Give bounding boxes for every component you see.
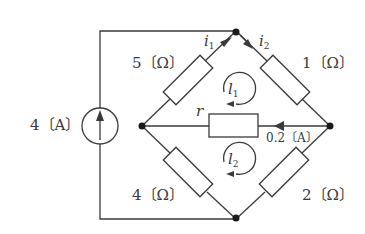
middle-current-arrow-icon xyxy=(274,121,284,131)
loop-l2-label: l2 xyxy=(228,152,239,167)
i1-label: i1 xyxy=(204,34,215,49)
resistor-4ohm-label: 4〔Ω〕 xyxy=(132,188,184,203)
resistor-r xyxy=(209,114,258,137)
resistor-r-label: r xyxy=(196,104,203,119)
circuit-diagram: 4〔A〕 5〔Ω〕 1〔Ω〕 4〔Ω〕 2〔Ω〕 r 0.2〔A〕 i1 i2 … xyxy=(0,0,365,234)
current-source xyxy=(82,108,118,144)
node-bottom xyxy=(233,215,240,222)
i2-label: i2 xyxy=(259,34,270,49)
i2-arrow-icon xyxy=(243,39,253,49)
current-source-label: 4〔A〕 xyxy=(30,118,80,133)
loop-l1-label: l1 xyxy=(228,82,239,97)
node-top xyxy=(233,29,240,36)
resistor-1ohm-label: 1〔Ω〕 xyxy=(302,56,354,71)
node-left xyxy=(139,123,146,130)
resistor-2ohm-label: 2〔Ω〕 xyxy=(302,188,354,203)
resistor-5ohm-label: 5〔Ω〕 xyxy=(132,56,184,71)
middle-current-label: 0.2〔A〕 xyxy=(266,132,318,144)
node-right xyxy=(327,123,334,130)
